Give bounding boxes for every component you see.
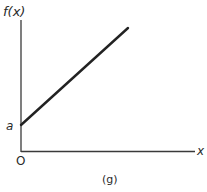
origin-label: O xyxy=(16,154,25,168)
y-axis-label: f(x) xyxy=(3,4,25,19)
figure-g: f(x) a O x (g) xyxy=(0,0,207,192)
figure-caption: (g) xyxy=(102,173,118,186)
function-line xyxy=(21,28,128,125)
intercept-label: a xyxy=(6,119,13,133)
x-axis-label: x xyxy=(196,144,205,158)
